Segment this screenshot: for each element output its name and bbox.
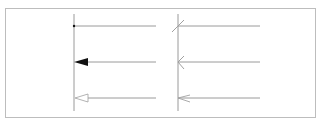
filled-triangle-arrowhead-icon [74, 58, 88, 66]
row-filled-triangle [74, 58, 156, 66]
row-open-triangle [75, 94, 156, 102]
arrowhead-styles-diagram [0, 0, 318, 123]
row-dot [73, 25, 156, 27]
row-slash [172, 20, 260, 32]
dot-arrowhead-icon [73, 25, 75, 27]
row-open-arrow [178, 56, 260, 69]
open-triangle-arrowhead-icon [75, 94, 88, 102]
row-narrow-open-arrow [178, 95, 260, 102]
